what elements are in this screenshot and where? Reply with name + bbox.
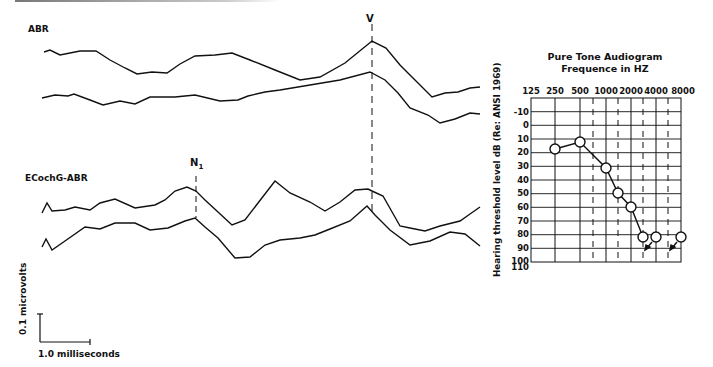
- svg-text:500: 500: [571, 86, 589, 96]
- svg-text:8000: 8000: [671, 86, 695, 96]
- svg-text:-10: -10: [514, 107, 529, 117]
- svg-text:90: 90: [517, 243, 529, 253]
- audiogram-y-ticks: -10010 203040 506070 8090100 110: [511, 107, 529, 273]
- svg-text:125: 125: [522, 86, 540, 96]
- svg-text:0: 0: [523, 120, 529, 130]
- svg-text:1000: 1000: [594, 86, 618, 96]
- svg-text:60: 60: [517, 202, 529, 212]
- audiogram-x-ticks: 125 250 500 1000 2000 4000 8000: [522, 86, 695, 96]
- scale-bar: [37, 314, 90, 345]
- svg-text:40: 40: [517, 175, 529, 185]
- svg-text:110: 110: [511, 262, 529, 272]
- svg-text:80: 80: [517, 229, 529, 239]
- svg-text:50: 50: [517, 188, 529, 198]
- svg-text:70: 70: [517, 216, 529, 226]
- audiogram-title: Pure Tone Audiogram Frequence in HZ: [540, 51, 670, 75]
- scale-y-label: 0.1 microvolts: [18, 263, 28, 335]
- scale-x-label: 1.0 milliseconds: [38, 349, 120, 359]
- svg-text:250: 250: [546, 86, 564, 96]
- svg-text:10: 10: [517, 134, 529, 144]
- svg-text:30: 30: [517, 161, 529, 171]
- audiogram-y-label: Hearing threshold level dB (Re: ANSI 196…: [492, 63, 502, 277]
- svg-text:4000: 4000: [644, 86, 668, 96]
- svg-text:20: 20: [517, 147, 529, 157]
- waveform-traces: [42, 41, 480, 258]
- svg-text:2000: 2000: [619, 86, 643, 96]
